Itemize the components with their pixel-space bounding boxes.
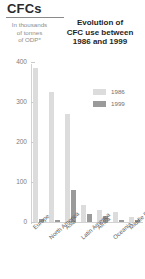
bar-group-middle-east — [129, 62, 142, 222]
bar-1986-north-america — [49, 92, 54, 222]
y-tick-label: 400 — [3, 58, 27, 65]
bar-1999-north-america — [55, 220, 60, 222]
y-tick-label: 100 — [3, 178, 27, 185]
chart-page: CFCs In thousands of tonnes of ODP* Evol… — [0, 0, 145, 279]
bar-group — [31, 62, 143, 222]
bar-group-latin-america — [81, 62, 94, 222]
bar-1986-oceania — [113, 212, 118, 222]
bar-group-north-america — [49, 62, 62, 222]
legend-swatch-1999 — [93, 101, 106, 107]
bar-1986-europe — [33, 68, 38, 222]
legend-label-1986: 1986 — [111, 88, 125, 95]
bar-1999-latin-america — [87, 214, 92, 222]
bar-1999-oceania — [119, 220, 124, 222]
bar-group-africa — [97, 62, 110, 222]
y-tick-label: 200 — [3, 138, 27, 145]
bar-1986-asia — [65, 114, 70, 222]
legend-label-1999: 1999 — [111, 100, 125, 107]
bar-group-asia — [65, 62, 78, 222]
bar-group-europe — [33, 62, 46, 222]
bar-1986-latin-america — [81, 205, 86, 222]
x-tick-labels: EuropeNorth AmericaAsiaLatin AmericaAfri… — [31, 224, 143, 279]
legend-swatch-1986 — [93, 89, 106, 95]
bar-group-oceania — [113, 62, 126, 222]
plot-area: 0100200300400 1986 1999 EuropeNorth Amer… — [0, 0, 145, 279]
y-tick-label: 300 — [3, 98, 27, 105]
y-tick-label: 0 — [3, 218, 27, 225]
